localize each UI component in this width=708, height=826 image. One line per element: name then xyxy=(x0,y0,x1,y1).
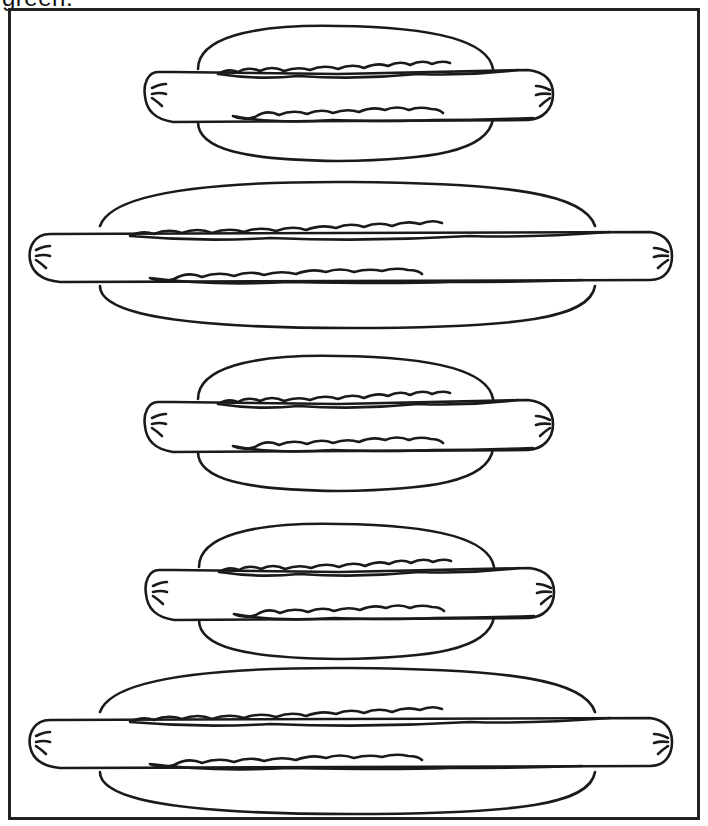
hotdog-5 xyxy=(30,668,672,814)
hotdog-4 xyxy=(146,524,554,659)
hotdog-illustrations xyxy=(0,0,708,826)
hotdog-1 xyxy=(145,26,553,161)
hotdog-3 xyxy=(145,356,553,491)
hotdog-2 xyxy=(30,182,672,328)
